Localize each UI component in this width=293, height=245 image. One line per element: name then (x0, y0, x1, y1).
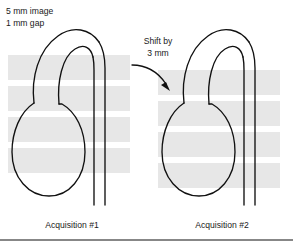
slice-legend-line-2: 1 mm gap (6, 18, 44, 28)
slice-band (158, 101, 280, 126)
slice-acquisition-diagram: Acquisition #1 Acquisition #2 5 mm image (0, 0, 293, 245)
slice-band (8, 148, 130, 173)
slice-band (8, 55, 130, 80)
caption-acquisition-2: Acquisition #2 (195, 220, 249, 230)
slice-band (158, 70, 280, 95)
slice-band (158, 163, 280, 188)
caption-acquisition-1: Acquisition #1 (45, 220, 99, 230)
slice-bands-panel-1 (8, 55, 130, 173)
slice-band (8, 86, 130, 111)
panel-acquisition-1: Acquisition #1 (8, 30, 130, 230)
panel-acquisition-2: Acquisition #2 (158, 30, 280, 230)
figure-container: Acquisition #1 Acquisition #2 5 mm image (0, 0, 293, 245)
slice-legend-line-1: 5 mm image (6, 6, 53, 16)
shift-annotation-line-1: Shift by (144, 36, 173, 46)
slice-band (8, 117, 130, 142)
shift-annotation-line-2: 3 mm (147, 48, 168, 58)
slice-bands-panel-2 (158, 70, 280, 188)
slice-band (158, 132, 280, 157)
slice-legend: 5 mm image 1 mm gap (6, 6, 53, 28)
